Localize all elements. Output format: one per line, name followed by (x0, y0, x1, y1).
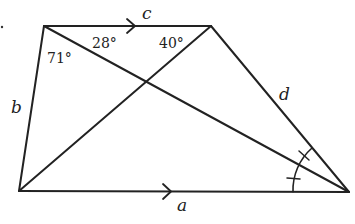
side-a (19, 191, 349, 192)
angle-label-71: 71° (47, 50, 72, 66)
angle-label-28: 28° (92, 35, 117, 51)
label-b: b (11, 97, 22, 117)
label-a: a (177, 195, 187, 215)
trapezoid-diagram: c a b d 71° 28° 40° (0, 0, 355, 224)
side-d (211, 26, 349, 192)
angle-label-40: 40° (159, 35, 184, 51)
label-c: c (142, 3, 152, 23)
diagonal-tl-br (44, 26, 349, 192)
side-b (19, 26, 44, 191)
angle-tick-lower (287, 178, 300, 179)
stray-dot (1, 26, 3, 28)
label-d: d (279, 84, 290, 104)
